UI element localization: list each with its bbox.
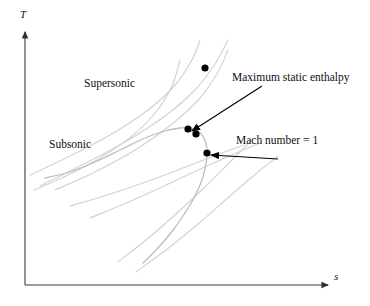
x-axis-label: s (334, 270, 338, 282)
rayleigh-line-supersonic-branch (143, 153, 207, 263)
annotation-label-mach-number: Mach number = 1 (236, 134, 318, 146)
isoline-1 (40, 40, 228, 186)
y-axis-label: T (20, 8, 26, 20)
isoline-3 (30, 40, 200, 175)
annotation-label-maximum-static-enthalpy: Maximum static enthalpy (232, 71, 350, 83)
marker-upper-isolated (201, 64, 208, 71)
isoline-6 (136, 156, 278, 272)
isoline-8 (70, 145, 244, 206)
ts-diagram-figure: T s Supersonic Subsonic Maximum static e… (0, 0, 370, 306)
isoline-7 (90, 142, 262, 218)
diagram-canvas (0, 0, 370, 306)
marker-max-enthalpy-right (192, 130, 199, 137)
marker-max-enthalpy-left (184, 125, 191, 132)
axes-group (25, 32, 328, 285)
marker-mach-one (203, 149, 210, 156)
rayleigh-line-subsonic-branch (45, 128, 207, 178)
arrow-mach-number-one (211, 155, 278, 159)
isoline-5 (118, 140, 252, 262)
region-label-subsonic: Subsonic (49, 138, 91, 150)
region-label-supersonic: Supersonic (84, 77, 135, 89)
arrow-maximum-static-enthalpy (192, 86, 262, 131)
